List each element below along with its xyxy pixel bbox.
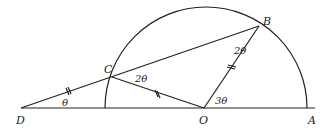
angle-label-C: 2θ xyxy=(134,73,147,84)
label-D: D xyxy=(15,114,25,127)
label-O: O xyxy=(199,114,208,127)
angle-label-D: θ xyxy=(62,97,68,108)
label-C: C xyxy=(104,63,113,76)
label-B: B xyxy=(262,15,271,28)
geometry-diagram: D O A C B θ 2θ 2θ 3θ xyxy=(0,0,330,129)
angle-label-B: 2θ xyxy=(233,45,246,56)
angle-label-O: 3θ xyxy=(215,95,227,106)
tick-mark-CO xyxy=(155,90,160,98)
semicircle-arc xyxy=(105,7,307,108)
label-A: A xyxy=(307,114,316,127)
segment-OB xyxy=(204,26,259,108)
